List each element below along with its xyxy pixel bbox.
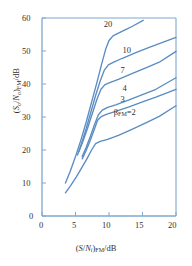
x-axis-title-fm: FM — [95, 247, 104, 253]
curve-label-beta-3: 3 — [120, 95, 124, 104]
x-tick-label-5: 5 — [72, 221, 76, 230]
x-axis-title: (S/Ni)FM/dB — [0, 244, 192, 253]
y-axis-title-n: N — [11, 95, 21, 101]
y-tick-label-20: 20 — [22, 146, 31, 155]
curve-series-group — [65, 20, 176, 193]
y-axis-title-open: ( — [11, 110, 21, 113]
beta-value: =2 — [127, 107, 136, 117]
y-tick-label-10: 10 — [22, 179, 31, 188]
x-tick-label-20: 20 — [168, 221, 177, 230]
x-axis-title-unit: /dB — [104, 243, 116, 253]
x-tick-label-10: 10 — [102, 221, 111, 230]
y-tick-label-30: 30 — [22, 113, 31, 122]
y-axis-title-close: ) — [11, 89, 21, 92]
curve-label-beta-4: 4 — [122, 84, 126, 93]
curve-beta-10 — [78, 37, 176, 154]
axes — [42, 18, 176, 216]
y-axis-title: (So/No)FM/dB — [12, 41, 21, 141]
curve-label-beta-7: 7 — [120, 66, 124, 75]
y-axis-title-n-sub: o — [16, 92, 22, 95]
curve-beta-20 — [65, 20, 143, 183]
curve-beta-2 — [65, 106, 176, 193]
y-axis-title-slash: / — [11, 101, 21, 103]
y-axis-title-fm: FM — [16, 80, 22, 89]
fm-snr-chart: 60 50 40 30 20 10 0 0 5 10 15 20 2010743… — [0, 0, 192, 266]
curve-label-beta-10: 10 — [122, 46, 131, 55]
y-tick-label-50: 50 — [22, 47, 31, 56]
y-axis-title-s-sub: o — [16, 103, 22, 106]
y-tick-label-0: 0 — [29, 212, 33, 221]
y-tick-label-40: 40 — [22, 80, 31, 89]
x-tick-label-15: 15 — [135, 221, 144, 230]
curve-label-beta-20: 20 — [104, 20, 113, 29]
y-tick-label-60: 60 — [22, 14, 31, 23]
curve-label-beta-2: βFM=2 — [114, 108, 136, 117]
y-axis-title-s: S — [11, 106, 21, 110]
y-axis-title-unit: /dB — [11, 68, 21, 80]
beta-subscript: FM — [118, 111, 127, 117]
x-tick-label-0: 0 — [39, 221, 43, 230]
chart-plot-area — [0, 0, 192, 266]
